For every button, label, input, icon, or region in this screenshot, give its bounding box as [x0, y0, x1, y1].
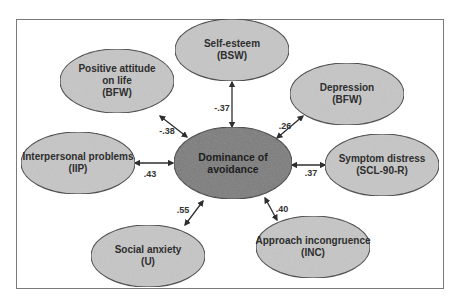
node-label-depression-line: (BFW)	[320, 94, 374, 106]
node-label-self-esteem-line: Self-esteem	[204, 38, 260, 50]
node-label-dominance-line: avoidance	[198, 163, 267, 175]
node-label-self-esteem: Self-esteem(BSW)	[204, 38, 260, 62]
node-label-symptom-distress-line: Symptom distress	[339, 153, 426, 165]
coefficient-interpersonal-problems: .43	[144, 169, 157, 179]
node-label-interpersonal-problems: Interpersonal problems(IIP)	[22, 151, 133, 175]
node-label-dominance: Dominance ofavoidance	[198, 151, 267, 175]
node-label-interpersonal-problems-line: Interpersonal problems	[22, 151, 133, 163]
node-label-approach-incongruence: Approach incongruence(INC)	[255, 235, 370, 259]
coefficient-self-esteem: -.37	[214, 103, 230, 113]
node-label-self-esteem-line: (BSW)	[204, 50, 260, 62]
node-label-approach-incongruence-line: (INC)	[255, 247, 370, 259]
node-label-social-anxiety-line: Social anxiety	[115, 244, 182, 256]
node-label-social-anxiety-line: (U)	[115, 256, 182, 268]
avoidance-correlation-diagram: Self-esteem(BSW)-.37Positive attitudeon …	[0, 0, 461, 304]
coefficient-approach-incongruence: .40	[276, 204, 289, 214]
node-label-positive-attitude-line: on life	[78, 75, 155, 87]
node-label-positive-attitude: Positive attitudeon life(BFW)	[78, 63, 155, 99]
coefficient-social-anxiety: .55	[177, 205, 190, 215]
node-label-symptom-distress-line: (SCL-90-R)	[339, 165, 426, 177]
node-label-positive-attitude-line: Positive attitude	[78, 63, 155, 75]
node-label-depression: Depression(BFW)	[320, 82, 374, 106]
node-label-interpersonal-problems-line: (IIP)	[22, 163, 133, 175]
node-label-symptom-distress: Symptom distress(SCL-90-R)	[339, 153, 426, 177]
coefficient-symptom-distress: .37	[305, 168, 318, 178]
node-label-depression-line: Depression	[320, 82, 374, 94]
coefficient-positive-attitude: -.38	[159, 126, 175, 136]
node-label-approach-incongruence-line: Approach incongruence	[255, 235, 370, 247]
node-label-positive-attitude-line: (BFW)	[78, 87, 155, 99]
coefficient-depression: .26	[279, 121, 292, 131]
node-label-dominance-line: Dominance of	[198, 151, 267, 163]
node-label-social-anxiety: Social anxiety(U)	[115, 244, 182, 268]
